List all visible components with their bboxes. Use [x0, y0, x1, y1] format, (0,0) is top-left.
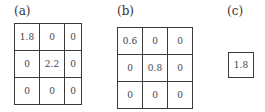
matrix-cell: 0 — [168, 55, 193, 82]
matrix-cell: 0 — [118, 82, 143, 109]
matrix-cell: 0 — [168, 82, 193, 109]
matrix-cell: 0 — [168, 28, 193, 55]
matrix-cell: 1.8 — [228, 52, 254, 78]
matrix-row: 0.6 0 0 — [118, 28, 193, 55]
matrix-cell: 0 — [40, 24, 65, 51]
matrix-cell: 0 — [65, 78, 82, 105]
matrix-cell: 0 — [40, 78, 65, 105]
matrix-cell: 0.6 — [118, 28, 143, 55]
matrix-cell: 0 — [15, 78, 40, 105]
matrix-cell: 1.8 — [15, 24, 40, 51]
matrix-row: 1.8 0 0 — [15, 24, 82, 51]
panel-b-label: (b) — [117, 4, 134, 18]
matrix-row: 0 0.8 0 — [118, 55, 193, 82]
matrix-cell: 0 — [65, 51, 82, 78]
panel-c-label: (c) — [227, 4, 243, 18]
matrix-grid-a: 1.8 0 0 0 2.2 0 0 0 0 — [14, 23, 82, 105]
matrix-row: 0 0 0 — [15, 78, 82, 105]
matrix-cell: 0 — [15, 51, 40, 78]
matrix-cell: 0 — [143, 82, 168, 109]
matrix-cell: 0 — [118, 55, 143, 82]
panel-a-label: (a) — [14, 4, 31, 18]
matrix-grid-b: 0.6 0 0 0 0.8 0 0 0 0 — [117, 27, 193, 109]
matrix-row: 0 0 0 — [118, 82, 193, 109]
matrix-cell: 0.8 — [143, 55, 168, 82]
matrix-row: 0 2.2 0 — [15, 51, 82, 78]
matrix-cell: 0 — [65, 24, 82, 51]
matrix-cell: 2.2 — [40, 51, 65, 78]
matrix-cell: 0 — [143, 28, 168, 55]
